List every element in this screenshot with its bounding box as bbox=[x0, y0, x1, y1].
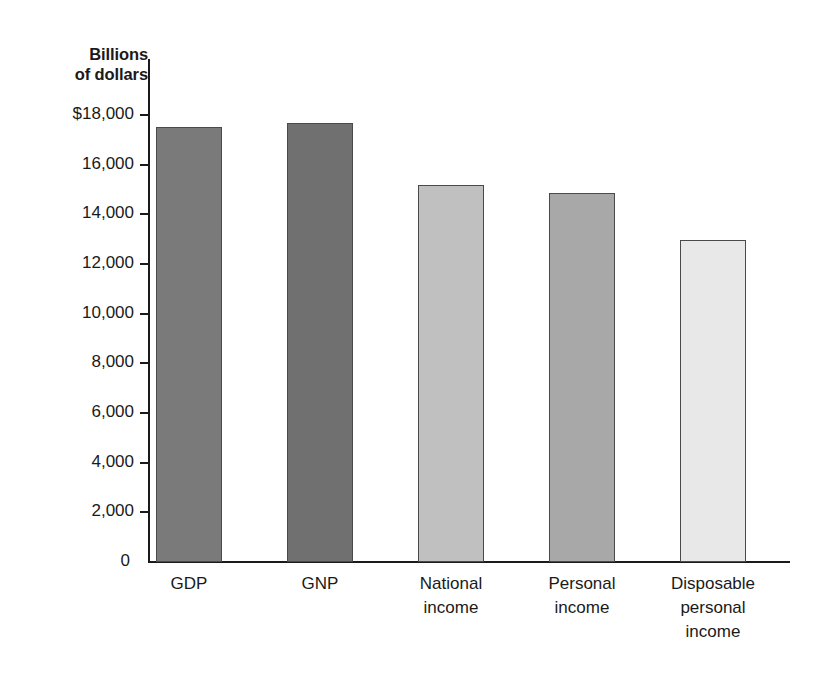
category-label: Disposable personal income bbox=[648, 572, 778, 644]
bar bbox=[156, 127, 222, 562]
category-label: GDP bbox=[124, 572, 254, 596]
bar-chart: Billions of dollars $18,00016,00014,0001… bbox=[0, 0, 820, 679]
category-label: GNP bbox=[255, 572, 385, 596]
bar bbox=[287, 123, 353, 562]
bar bbox=[549, 193, 615, 562]
category-label: Personal income bbox=[517, 572, 647, 620]
category-label: National income bbox=[386, 572, 516, 620]
bar bbox=[418, 185, 484, 562]
bar bbox=[680, 240, 746, 562]
